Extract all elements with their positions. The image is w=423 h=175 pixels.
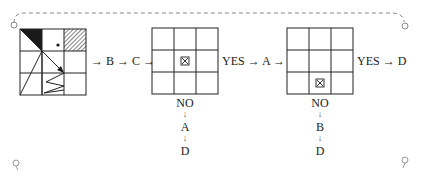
- hook-icon-bottom-left: [13, 160, 19, 170]
- branch-no-label: NO: [305, 97, 335, 109]
- hook-icon-top-right: [402, 23, 408, 29]
- grid-3: [287, 28, 353, 94]
- start-grid: [20, 29, 86, 95]
- branch-step-label: B: [305, 121, 335, 133]
- marker-box-icon: [181, 57, 189, 65]
- hook-icon-bottom-right: [402, 157, 408, 168]
- flow-label-yes-a: YES → A →: [222, 55, 285, 67]
- grid-2: [152, 28, 218, 94]
- flow-label-yes-d: YES → D: [357, 55, 406, 67]
- branch-no-1: NO ↓ A ↓ D: [170, 97, 200, 157]
- diagram-canvas: [0, 0, 423, 175]
- zigzag-line: [44, 73, 64, 93]
- branch-no-2: NO ↓ B ↓ D: [305, 97, 335, 157]
- branch-no-label: NO: [170, 97, 200, 109]
- flow-label-b-c: → B → C →: [91, 55, 155, 67]
- hatched-cell: [64, 29, 86, 51]
- dashed-border-top: [14, 13, 404, 23]
- branch-step-label: D: [305, 145, 335, 157]
- marker-box-icon: [316, 79, 324, 87]
- dot: [56, 43, 59, 46]
- branch-step-label: D: [170, 145, 200, 157]
- branch-step-label: A: [170, 121, 200, 133]
